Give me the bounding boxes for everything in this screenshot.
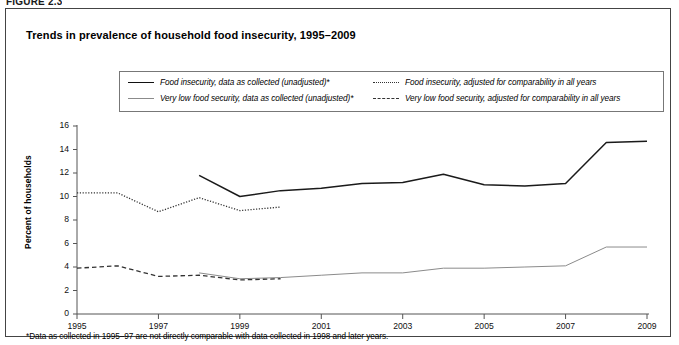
chart-footnote: *Data as collected in 1995–97 are not di… (26, 332, 388, 341)
series-line (199, 247, 647, 279)
y-axis-tick-label: 14 (47, 144, 69, 154)
chart-legend: Food insecurity, data as collected (unad… (119, 71, 664, 112)
y-axis-tick-label: 2 (47, 285, 69, 295)
x-axis-tick-label: 1997 (138, 321, 178, 331)
legend-swatch-dotted-line-icon (373, 77, 399, 87)
chart-title: Trends in prevalence of household food i… (26, 29, 356, 41)
legend-swatch-gray-line-icon (128, 93, 154, 103)
y-axis-tick-label: 12 (47, 167, 69, 177)
legend-swatch-dashed-line-icon (373, 93, 399, 103)
legend-label: Very low food security, adjusted for com… (405, 94, 620, 103)
plot-area: 0246810121416199519971999200120032005200… (6, 9, 679, 345)
series-line (199, 141, 647, 196)
x-axis-tick-label: 2003 (383, 321, 423, 331)
legend-label: Very low food security, data as collecte… (160, 94, 353, 103)
figure-number: FIGURE 2.3 (6, 0, 62, 6)
figure-panel: Trends in prevalence of household food i… (5, 8, 671, 337)
y-axis-tick-label: 0 (47, 308, 69, 318)
y-axis-tick-label: 6 (47, 238, 69, 248)
legend-item-vlfs-collected[interactable]: Very low food security, data as collecte… (128, 93, 353, 103)
x-axis-tick-label: 2005 (464, 321, 504, 331)
legend-item-fi-collected[interactable]: Food insecurity, data as collected (unad… (128, 77, 329, 87)
y-axis-tick-label: 16 (47, 120, 69, 130)
x-axis-tick-label: 2001 (301, 321, 341, 331)
legend-item-fi-adjusted[interactable]: Food insecurity, adjusted for comparabil… (373, 77, 596, 87)
x-axis-tick-label: 2009 (627, 321, 667, 331)
legend-item-vlfs-adjusted[interactable]: Very low food security, adjusted for com… (373, 93, 620, 103)
x-axis-tick-label: 1995 (57, 321, 97, 331)
legend-swatch-solid-line-icon (128, 77, 154, 87)
x-axis-tick-label: 1999 (220, 321, 260, 331)
chart-canvas (6, 9, 679, 345)
y-axis-tick-label: 4 (47, 261, 69, 271)
x-axis-tick-label: 2007 (546, 321, 586, 331)
series-line (77, 193, 281, 212)
y-axis-tick-label: 10 (47, 191, 69, 201)
series-line (77, 266, 281, 280)
legend-label: Food insecurity, adjusted for comparabil… (405, 78, 596, 87)
legend-label: Food insecurity, data as collected (unad… (160, 78, 329, 87)
y-axis-tick-label: 8 (47, 214, 69, 224)
y-axis-title: Percent of households (23, 147, 33, 257)
